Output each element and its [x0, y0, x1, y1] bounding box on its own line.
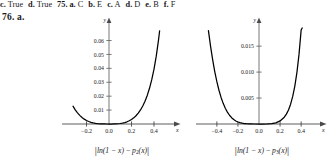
caption-poly-arg: (x) [139, 146, 147, 155]
svg-text:−0.2: −0.2 [232, 128, 243, 134]
answer-entry: d. D [126, 0, 141, 10]
svg-text:0.4: 0.4 [297, 128, 305, 134]
svg-text:0.03: 0.03 [94, 79, 104, 85]
caption-poly-arg: (x) [279, 146, 287, 155]
right-plot-svg: xy−0.4−0.20.00.20.40.0050.0100.015 [196, 14, 328, 140]
svg-text:0.02: 0.02 [94, 93, 104, 99]
answer-entry: c. A [107, 0, 120, 10]
caption-function: ln(1 − x) [97, 146, 124, 155]
answer-value: C [78, 0, 84, 9]
svg-text:0.04: 0.04 [94, 65, 104, 71]
plot-canvas-right: xy−0.4−0.20.00.20.40.0050.0100.015 [196, 14, 328, 140]
svg-text:0.0: 0.0 [255, 128, 263, 134]
plot-canvas-left: xy−0.20.00.20.40.010.020.030.040.050.06 [62, 14, 182, 140]
answer-label: e. [145, 0, 151, 9]
answer-value: True [37, 0, 52, 9]
svg-text:0.015: 0.015 [241, 43, 254, 49]
svg-text:x: x [175, 127, 179, 133]
answer-label: a. [69, 0, 75, 9]
svg-text:0.010: 0.010 [241, 69, 254, 75]
abs-bar-close: | [147, 145, 149, 156]
answer-value: True [8, 0, 23, 9]
svg-text:y: y [103, 17, 107, 23]
abs-bar-close: | [287, 145, 289, 156]
answer-value: B [153, 0, 159, 9]
caption-minus: − [126, 146, 130, 155]
caption-right: |ln(1 − x) − p3(x)| [196, 146, 328, 157]
answer-entry: d. True [28, 0, 52, 10]
answer-entry: b. E [88, 0, 102, 10]
question-number-75: 75. [57, 0, 67, 9]
answer-label: b. [88, 0, 95, 9]
caption-left: |ln(1 − x) − p2(x)| [62, 146, 182, 157]
figure-right-plot: xy−0.4−0.20.00.20.40.0050.0100.015 |ln(1… [196, 14, 328, 158]
answer-label: c. [0, 0, 6, 9]
caption-minus: − [266, 146, 270, 155]
left-plot-svg: xy−0.20.00.20.40.010.020.030.040.050.06 [62, 14, 182, 140]
svg-text:0.01: 0.01 [94, 107, 104, 113]
svg-text:0.2: 0.2 [128, 128, 136, 134]
answer-value: D [134, 0, 140, 9]
problem-number: 76. [2, 12, 14, 22]
svg-text:x: x [321, 127, 325, 133]
answer-value: E [97, 0, 102, 9]
answer-entry: e. B [145, 0, 158, 10]
answer-label: d. [126, 0, 133, 9]
svg-text:0.06: 0.06 [94, 38, 104, 44]
answer-entry: f. F [164, 0, 176, 10]
answer-label: f. [164, 0, 169, 9]
svg-text:0.2: 0.2 [276, 128, 284, 134]
caption-function: ln(1 − x) [237, 146, 264, 155]
answer-label: c. [107, 0, 113, 9]
answer-entry: a. C [69, 0, 83, 10]
answer-entry: c. True [0, 0, 23, 10]
answer-key-line: c. Trued. True75.a. Cb. Ec. Ad. De. Bf. … [0, 0, 328, 10]
figure-left-plot: xy−0.20.00.20.40.010.020.030.040.050.06 … [62, 14, 182, 158]
svg-text:0.0: 0.0 [105, 128, 113, 134]
svg-text:0.005: 0.005 [241, 95, 254, 101]
problem-part: a. [17, 12, 25, 22]
svg-text:0.05: 0.05 [94, 52, 104, 58]
problem-label: 76. a. [2, 12, 25, 22]
answer-value: F [171, 0, 176, 9]
svg-text:0.4: 0.4 [150, 128, 158, 134]
svg-text:−0.2: −0.2 [81, 128, 92, 134]
answer-value: A [115, 0, 121, 9]
svg-text:y: y [253, 17, 257, 23]
answer-label: d. [28, 0, 35, 9]
svg-text:−0.4: −0.4 [211, 128, 222, 134]
